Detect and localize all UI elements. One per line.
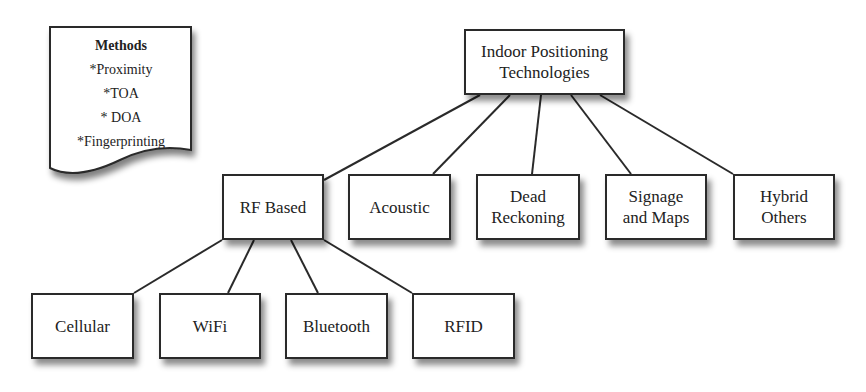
method-item: *Fingerprinting xyxy=(50,130,192,154)
node-label: Bluetooth xyxy=(303,316,370,337)
node-label-line2: Others xyxy=(761,207,806,228)
node-acoustic: Acoustic xyxy=(348,174,451,240)
node-rf-based: RF Based xyxy=(222,174,324,240)
root-label-line2: Technologies xyxy=(499,62,589,83)
node-label: WiFi xyxy=(193,316,227,337)
node-label: RFID xyxy=(444,316,483,337)
root-label-line1: Indoor Positioning xyxy=(481,41,608,62)
node-bluetooth: Bluetooth xyxy=(285,293,388,359)
methods-note: Methods *Proximity *TOA * DOA *Fingerpri… xyxy=(50,34,192,154)
node-label-line1: Hybrid xyxy=(760,186,808,207)
node-hybrid-others: Hybrid Others xyxy=(733,174,835,240)
node-label-line2: and Maps xyxy=(623,207,690,228)
edge-root-signage xyxy=(571,95,631,174)
node-signage-and-maps: Signage and Maps xyxy=(605,174,707,240)
node-cellular: Cellular xyxy=(31,293,134,359)
edge-rf-wifi xyxy=(228,240,254,293)
edge-root-dead-reckoning xyxy=(532,95,541,174)
edge-root-hybrid xyxy=(600,95,733,174)
node-label: Cellular xyxy=(55,316,110,337)
edge-rf-rfid xyxy=(324,240,412,293)
method-item: *TOA xyxy=(50,82,192,106)
node-rfid: RFID xyxy=(412,293,515,359)
method-item: *Proximity xyxy=(50,58,192,82)
node-label-line2: Reckoning xyxy=(491,207,565,228)
node-label: Acoustic xyxy=(369,197,429,218)
node-label-line1: Signage xyxy=(629,186,684,207)
root-node-indoor-positioning: Indoor Positioning Technologies xyxy=(464,29,625,95)
node-wifi: WiFi xyxy=(159,293,261,359)
node-label-line1: Dead xyxy=(510,186,546,207)
edge-rf-bluetooth xyxy=(291,240,318,293)
node-label: RF Based xyxy=(240,197,307,218)
edge-root-rf xyxy=(324,95,480,180)
edge-rf-cellular xyxy=(134,240,222,293)
node-dead-reckoning: Dead Reckoning xyxy=(476,174,580,240)
method-item: * DOA xyxy=(50,106,192,130)
edge-root-acoustic xyxy=(433,95,510,174)
methods-title: Methods xyxy=(50,34,192,58)
